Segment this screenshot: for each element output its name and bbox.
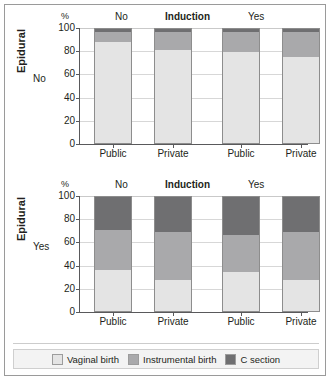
x-axis-tick-mark <box>173 312 174 316</box>
axis-label-epidural: Epidural <box>15 197 27 241</box>
bar-segment-vaginal-birth[interactable] <box>223 52 259 143</box>
bar-segment-instrumental-birth[interactable] <box>95 32 131 41</box>
bar-segment-instrumental-birth[interactable] <box>223 235 259 273</box>
bar-segment-instrumental-birth[interactable] <box>155 232 191 280</box>
x-axis-tick-label: Public <box>83 316 143 327</box>
group-label-no: No <box>115 11 128 22</box>
legend-item[interactable]: Instrumental birth <box>128 354 216 365</box>
bar-segment-vaginal-birth[interactable] <box>283 57 319 143</box>
x-axis-tick-mark <box>301 144 302 148</box>
plot-area-epidural-no: 020406080100PublicPrivatePublicPrivate <box>79 28 308 145</box>
bar-segment-c-section[interactable] <box>223 197 259 235</box>
chart-title-induction: Induction <box>165 179 210 190</box>
bar-segment-vaginal-birth[interactable] <box>155 50 191 143</box>
x-axis-tick-mark <box>241 144 242 148</box>
bar-segment-c-section[interactable] <box>95 197 131 230</box>
group-label-no: No <box>115 179 128 190</box>
x-axis-tick-label: Public <box>211 148 271 159</box>
y-axis-tick-label: 60 <box>43 237 75 247</box>
group-label-yes: Yes <box>248 11 264 22</box>
bar-segment-instrumental-birth[interactable] <box>95 230 131 270</box>
x-axis-tick-label: Public <box>83 148 143 159</box>
y-axis-tick-mark <box>76 28 80 29</box>
legend-swatch-icon <box>128 354 139 365</box>
bar-segment-c-section[interactable] <box>155 197 191 232</box>
legend-swatch-icon <box>52 354 63 365</box>
y-axis-tick-label: 0 <box>43 139 75 149</box>
axis-label-epidural: Epidural <box>15 29 27 73</box>
stacked-bar[interactable] <box>222 28 260 144</box>
x-axis-tick-mark <box>113 144 114 148</box>
y-axis-tick-label: 100 <box>43 191 75 201</box>
y-axis-tick-mark <box>76 312 80 313</box>
stacked-bar[interactable] <box>282 196 320 312</box>
x-axis-tick-mark <box>241 312 242 316</box>
bar-segment-vaginal-birth[interactable] <box>95 42 131 143</box>
group-label-yes: Yes <box>248 179 264 190</box>
y-axis-tick-mark <box>76 289 80 290</box>
x-axis-tick-label: Private <box>271 148 331 159</box>
y-axis-tick-mark <box>76 51 80 52</box>
chart-title-induction: Induction <box>165 11 210 22</box>
x-axis-tick-label: Private <box>143 316 203 327</box>
y-axis-tick-label: 60 <box>43 69 75 79</box>
y-axis-tick-mark <box>76 242 80 243</box>
y-axis-tick-mark <box>76 121 80 122</box>
legend-divider <box>13 343 319 344</box>
y-axis-tick-label: 40 <box>43 261 75 271</box>
stacked-bar[interactable] <box>154 196 192 312</box>
bar-segment-vaginal-birth[interactable] <box>155 280 191 311</box>
y-axis-tick-mark <box>76 144 80 145</box>
stacked-bar[interactable] <box>154 28 192 144</box>
legend-item[interactable]: C section <box>225 354 280 365</box>
bar-segment-instrumental-birth[interactable] <box>283 32 319 57</box>
y-axis-tick-label: 40 <box>43 93 75 103</box>
bar-segment-vaginal-birth[interactable] <box>95 270 131 311</box>
figure-frame: % No Induction Yes Epidural No 020406080… <box>4 4 326 376</box>
legend-swatch-icon <box>225 354 236 365</box>
y-axis-tick-mark <box>76 74 80 75</box>
bar-segment-instrumental-birth[interactable] <box>223 32 259 51</box>
bar-segment-instrumental-birth[interactable] <box>155 32 191 49</box>
y-axis-tick-label: 20 <box>43 284 75 294</box>
x-axis-tick-label: Public <box>211 316 271 327</box>
bar-segment-vaginal-birth[interactable] <box>223 272 259 311</box>
legend-label: C section <box>240 354 280 365</box>
bar-segment-vaginal-birth[interactable] <box>283 280 319 311</box>
x-axis-tick-mark <box>301 312 302 316</box>
stacked-bar[interactable] <box>282 28 320 144</box>
stacked-bar[interactable] <box>94 28 132 144</box>
x-axis-tick-mark <box>113 312 114 316</box>
y-axis-tick-mark <box>76 196 80 197</box>
percent-symbol: % <box>61 179 69 189</box>
legend-item[interactable]: Vaginal birth <box>52 354 119 365</box>
stacked-bar[interactable] <box>222 196 260 312</box>
y-axis-tick-label: 80 <box>43 46 75 56</box>
x-axis-tick-mark <box>173 144 174 148</box>
y-axis-tick-mark <box>76 266 80 267</box>
chart-panel-epidural-no: % No Induction Yes Epidural No 020406080… <box>5 11 327 177</box>
x-axis-tick-label: Private <box>143 148 203 159</box>
stacked-bar[interactable] <box>94 196 132 312</box>
y-axis-tick-label: 0 <box>43 307 75 317</box>
chart-legend: Vaginal birthInstrumental birthC section <box>13 349 319 369</box>
percent-symbol: % <box>61 11 69 21</box>
y-axis-tick-mark <box>76 219 80 220</box>
chart-panel-epidural-yes: % No Induction Yes Epidural Yes 02040608… <box>5 179 327 345</box>
bar-segment-c-section[interactable] <box>283 197 319 232</box>
y-axis-tick-mark <box>76 98 80 99</box>
y-axis-tick-label: 80 <box>43 214 75 224</box>
x-axis-tick-label: Private <box>271 316 331 327</box>
y-axis-tick-label: 20 <box>43 116 75 126</box>
plot-area-epidural-yes: 020406080100PublicPrivatePublicPrivate <box>79 196 308 313</box>
y-axis-tick-label: 100 <box>43 23 75 33</box>
legend-label: Vaginal birth <box>67 354 119 365</box>
bar-segment-instrumental-birth[interactable] <box>283 232 319 280</box>
legend-label: Instrumental birth <box>143 354 216 365</box>
